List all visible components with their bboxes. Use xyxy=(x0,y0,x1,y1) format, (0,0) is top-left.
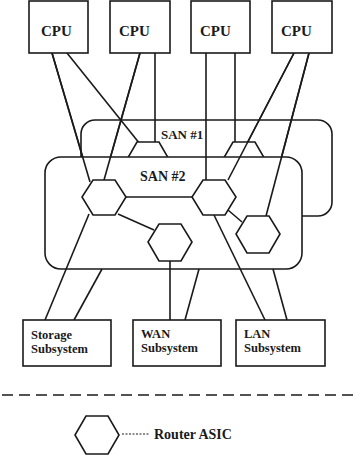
san-2-label: SAN #2 xyxy=(140,169,186,184)
cpu-3: CPU xyxy=(191,1,250,53)
cpu-4: CPU xyxy=(272,1,332,53)
san-1-label: SAN #1 xyxy=(161,127,203,142)
cpu-2: CPU xyxy=(110,1,170,53)
san-architecture-diagram: SAN #1 SAN #2 CPU CPU CPU xyxy=(0,0,358,464)
cpu-1-label: CPU xyxy=(41,23,72,39)
cpu-4-label: CPU xyxy=(281,23,312,39)
wan-subsystem-line2: Subsystem xyxy=(141,341,199,355)
wan-subsystem-line1: WAN xyxy=(141,327,170,341)
wan-subsystem: WAN Subsystem xyxy=(133,320,221,366)
storage-subsystem-line1: Storage xyxy=(31,328,72,342)
cpu-2-label: CPU xyxy=(119,23,150,39)
lan-subsystem-line1: LAN xyxy=(244,327,270,341)
cpu-3-label: CPU xyxy=(200,23,231,39)
lan-subsystem-line2: Subsystem xyxy=(244,341,302,355)
lan-subsystem: LAN Subsystem xyxy=(236,320,325,366)
legend: Router ASIC xyxy=(75,416,232,454)
hexagon-icon xyxy=(75,416,119,454)
storage-subsystem-line2: Subsystem xyxy=(31,342,89,356)
legend-label: Router ASIC xyxy=(154,427,232,442)
cpu-1: CPU xyxy=(29,1,88,53)
storage-subsystem: Storage Subsystem xyxy=(23,320,111,366)
